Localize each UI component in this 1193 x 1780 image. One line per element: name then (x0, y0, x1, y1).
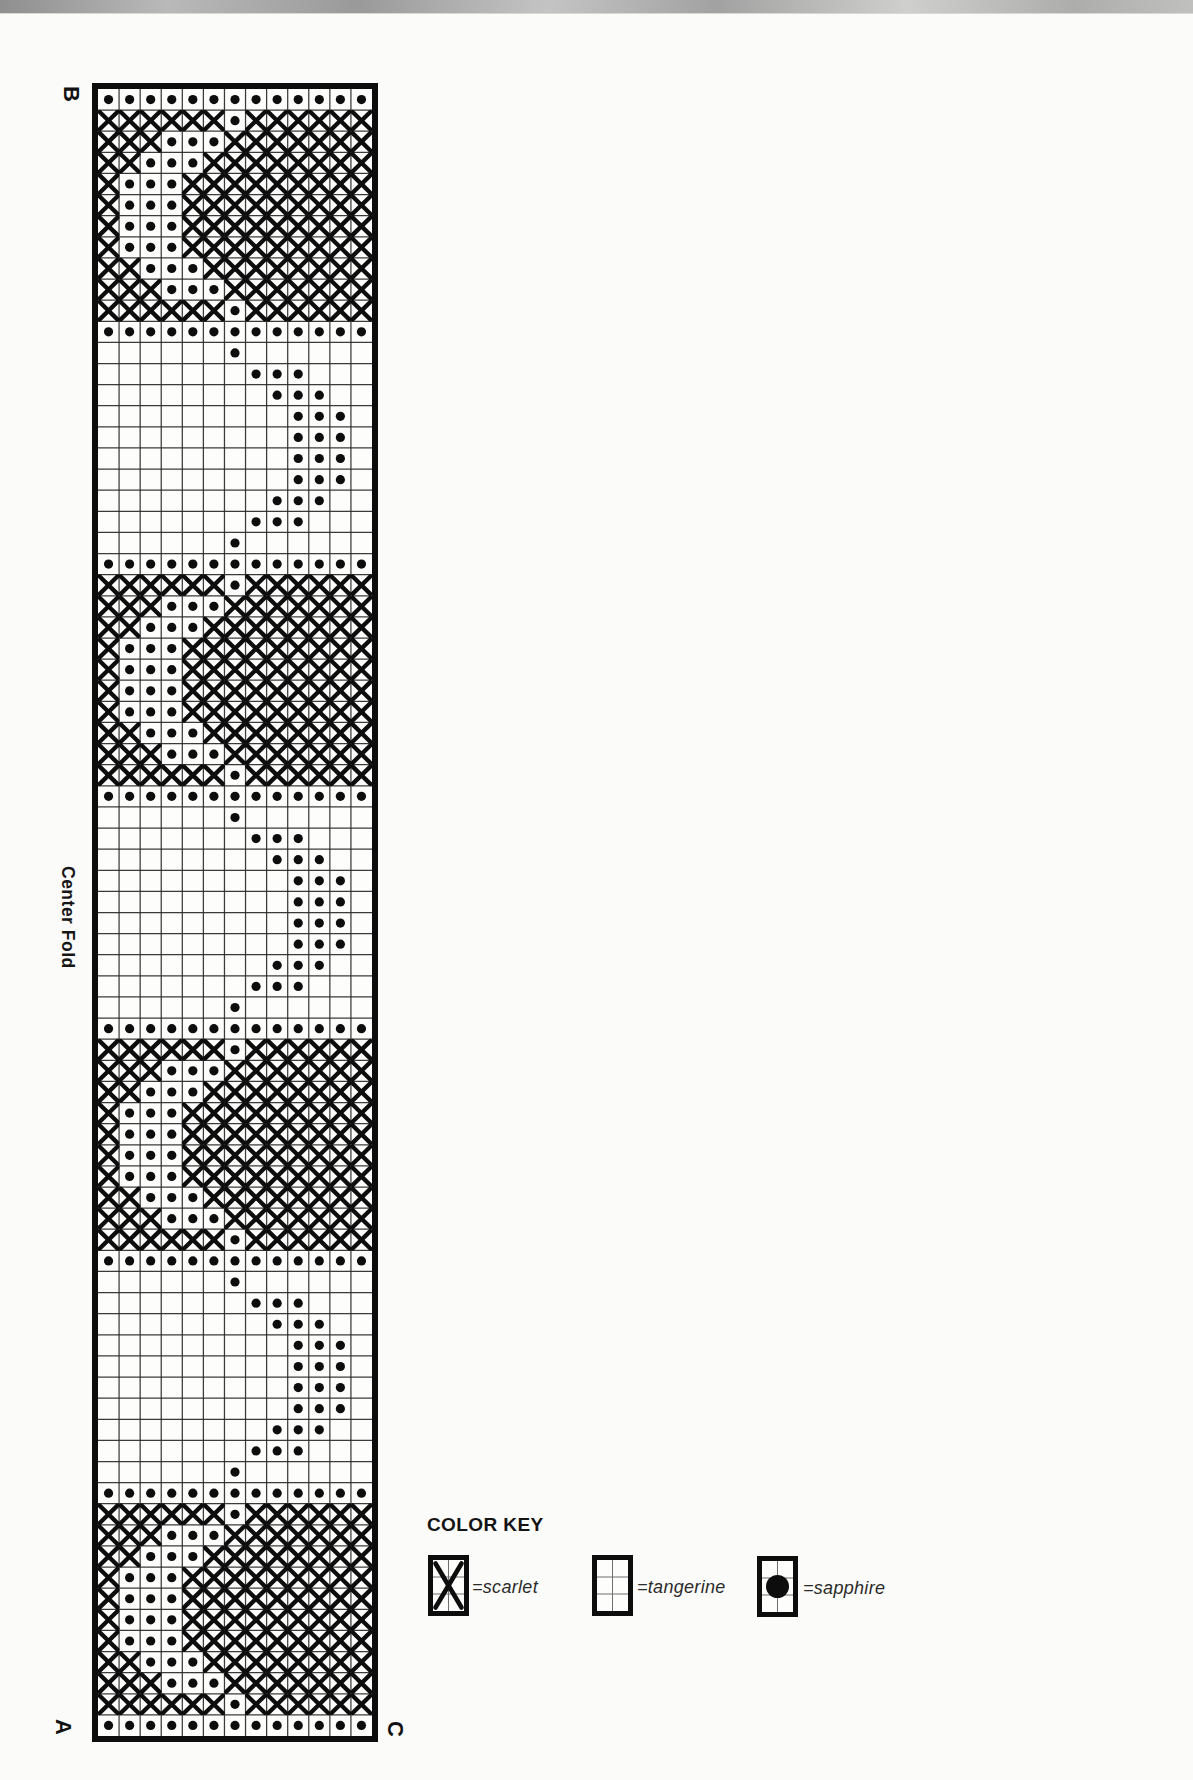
tangerine-key-label: =tangerine (637, 1576, 726, 1598)
scarlet-swatch-icon (428, 1555, 469, 1616)
corner-label-top-left: B (59, 81, 83, 107)
page-top-scan-edge (0, 0, 1193, 14)
tangerine-swatch-icon (592, 1555, 633, 1616)
corner-label-bottom-left: A (50, 1714, 76, 1740)
needlework-pattern-grid (92, 83, 378, 1742)
sapphire-swatch-icon (757, 1556, 798, 1617)
center-fold-label: Center Fold (51, 866, 78, 1016)
corner-label-bottom-right: C (382, 1716, 408, 1742)
color-key-title: COLOR KEY (427, 1514, 544, 1536)
sapphire-key-label: =sapphire (803, 1577, 885, 1599)
scarlet-key-label: =scarlet (472, 1576, 538, 1598)
